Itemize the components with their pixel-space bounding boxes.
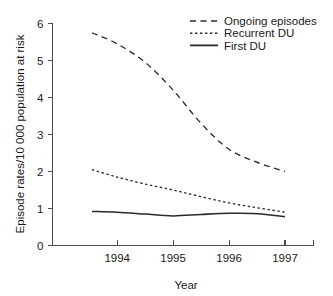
x-tick-group: 1994199519961997	[104, 240, 297, 264]
x-axis-title: Year	[174, 279, 197, 291]
x-tick-label: 1995	[160, 252, 186, 264]
legend-label: Recurrent DU	[224, 27, 294, 39]
y-axis-title: Episode rates/10 000 population at risk	[14, 34, 26, 233]
x-tick-label: 1997	[272, 252, 298, 264]
chart-legend: Ongoing episodesRecurrent DUFirst DU	[190, 15, 317, 51]
y-tick-group: 0123456	[37, 18, 52, 252]
series-line-ongoing-episodes	[92, 33, 285, 172]
x-tick-label: 1994	[104, 252, 130, 264]
y-tick-label: 1	[37, 203, 43, 215]
legend-label: Ongoing episodes	[224, 15, 317, 27]
x-axis: 1994199519961997	[53, 240, 314, 264]
series-line-first-du	[92, 211, 285, 216]
y-tick-label: 4	[37, 92, 44, 104]
line-chart-plot: 0123456 1994199519961997 Ongoing episode…	[0, 0, 333, 296]
y-tick-label: 3	[37, 129, 43, 141]
series-line-recurrent-du	[92, 170, 285, 213]
y-tick-label: 2	[37, 166, 43, 178]
chart-figure: 0123456 1994199519961997 Ongoing episode…	[0, 0, 333, 296]
data-series-group	[92, 33, 285, 217]
y-axis: 0123456	[37, 18, 52, 252]
x-axis-line	[53, 240, 314, 246]
y-tick-label: 6	[37, 18, 43, 30]
y-tick-label: 0	[37, 240, 43, 252]
y-tick-label: 5	[37, 55, 43, 67]
legend-label: First DU	[224, 40, 266, 52]
x-tick-label: 1996	[216, 252, 242, 264]
